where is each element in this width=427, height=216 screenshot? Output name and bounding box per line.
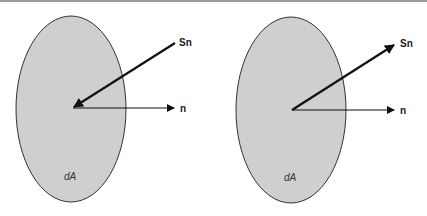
vector-label-sn: Sn xyxy=(179,37,192,48)
surface-flux-diagram: Sn n dA Sn n dA xyxy=(0,0,427,216)
normal-label-n: n xyxy=(400,105,406,116)
panel-outgoing: Sn n dA xyxy=(236,17,413,203)
panel-incoming: Sn n dA xyxy=(16,16,192,202)
normal-label-n: n xyxy=(180,103,186,114)
area-label-da: dA xyxy=(284,172,297,183)
area-label-da: dA xyxy=(64,171,77,182)
vector-label-sn: Sn xyxy=(400,38,413,49)
